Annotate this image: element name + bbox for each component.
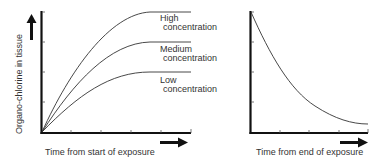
up-arrow-icon [27,14,37,40]
left-y-axis-label: Organo-chlorine in tissue [14,34,24,134]
curve-decay [251,12,368,124]
right-arrow-icon [340,138,368,148]
label-medium-line2: concentration [163,53,217,63]
left-chart: Organo-chlorine in tissue High [14,11,217,157]
left-x-axis-label: Time from start of exposure [45,147,155,157]
label-high-line2: concentration [163,22,217,32]
right-chart: Time from end of exposure [250,11,369,157]
label-low-line2: concentration [163,84,217,94]
right-arrow-icon [160,138,188,148]
charts-canvas: Organo-chlorine in tissue High [0,0,383,164]
right-x-axis-label: Time from end of exposure [256,147,363,157]
